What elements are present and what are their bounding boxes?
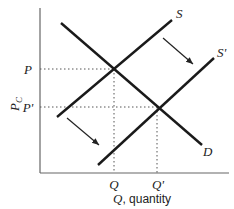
- price-label-p: P: [23, 62, 32, 77]
- shift-arrow-icon: [163, 38, 193, 64]
- curve-label-s: S: [176, 6, 183, 21]
- demand-curve: [61, 23, 202, 145]
- quantity-label-q-prime: Q': [152, 177, 164, 192]
- curve-label-s-prime: S': [217, 45, 227, 60]
- quantity-label-q: Q: [109, 177, 119, 192]
- shift-arrow-icon: [67, 118, 99, 145]
- supply-demand-diagram: S S' D P P' PC Q Q' Q, quantity: [0, 0, 234, 209]
- curve-label-d: D: [202, 144, 213, 159]
- x-axis-label: Q, quantity: [113, 191, 171, 206]
- supply-curve-shifted: [98, 58, 214, 165]
- y-axis-label: PC: [7, 96, 24, 112]
